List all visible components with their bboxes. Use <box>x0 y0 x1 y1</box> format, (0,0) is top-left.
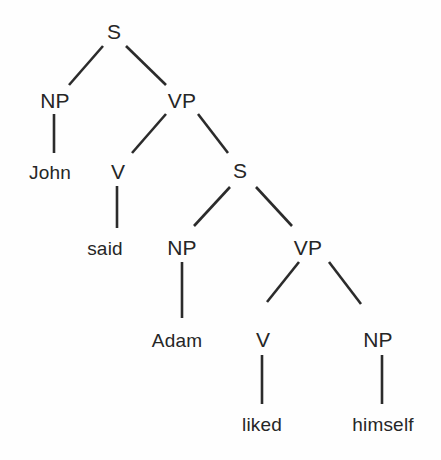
tree-node-vp-embedded: VP <box>294 237 322 258</box>
edge-s-to-vp-matrix <box>126 46 166 85</box>
tree-node-adam: Adam <box>152 331 202 350</box>
tree-node-john: John <box>29 163 71 182</box>
tree-node-vp-matrix: VP <box>168 90 196 111</box>
tree-edges-layer <box>0 0 441 460</box>
tree-node-np-embedded-subject: NP <box>167 237 197 258</box>
syntax-tree-figure: SNPVPJohnVSsaidNPVPAdamVNPlikedhimself <box>0 0 441 460</box>
edges-group <box>54 46 382 404</box>
tree-node-v-embedded: V <box>256 329 270 350</box>
edge-s-embedded-to-np <box>194 187 230 226</box>
edge-s-embedded-to-vp <box>256 187 292 226</box>
edge-vp-to-v-matrix <box>132 114 166 153</box>
tree-node-said: said <box>87 239 123 258</box>
edge-s-to-np-subject <box>69 46 103 85</box>
tree-node-np-subject: NP <box>40 90 70 111</box>
tree-node-himself: himself <box>352 415 414 434</box>
tree-node-s-root: S <box>107 21 121 42</box>
edge-vp-to-s-embedded <box>198 114 228 153</box>
tree-node-np-object: NP <box>363 329 393 350</box>
tree-node-liked: liked <box>242 415 282 434</box>
edge-vp-embedded-to-np <box>329 262 361 304</box>
tree-node-s-embedded: S <box>233 160 247 181</box>
tree-node-v-matrix: V <box>111 161 125 182</box>
edge-vp-embedded-to-v <box>267 262 299 302</box>
